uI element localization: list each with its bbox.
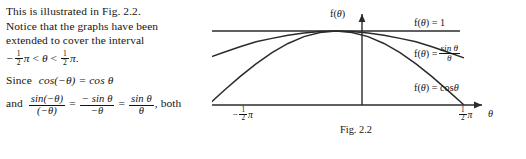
fraction-denominator: 2: [459, 114, 467, 122]
fraction-numerator: sin θ: [439, 44, 461, 53]
sinc-fraction: sin θθ: [129, 94, 154, 117]
fraction-denominator: 2: [61, 58, 69, 67]
theta-symbol: θ: [42, 52, 48, 64]
legend-label-sinc: f(θ) =sin θθ: [414, 44, 461, 64]
fraction-numerator: 1: [239, 107, 247, 114]
fraction-numerator: 1: [459, 107, 467, 114]
sinc-negative-fraction: sin(−θ)(−θ): [29, 94, 65, 117]
both-suffix: , both: [155, 97, 182, 109]
fraction-numerator: 1: [15, 50, 23, 58]
negative-sine-fraction: − sin θ−θ: [80, 94, 115, 117]
body-line-1: This is illustrated in Fig. 2.2.: [6, 4, 212, 19]
since-word: Since: [6, 74, 32, 86]
pi-symbol-left: π: [24, 52, 30, 64]
and-word: and: [6, 97, 23, 109]
sinc-legend-fraction: sin θθ: [439, 44, 461, 64]
fraction-denominator: (−θ): [29, 105, 65, 117]
one-half-fraction-right: 12: [61, 50, 69, 67]
one-half-fraction-left: 12: [15, 50, 23, 67]
x-axis-arrowhead: [474, 102, 482, 109]
body-line-2: Notice that the graphs have been: [6, 19, 212, 34]
x-tick-label-half-pi: 12π: [458, 107, 472, 123]
less-than-1: <: [32, 52, 39, 64]
figure-2-2: f(θ) f(θ) = 1 f(θ) =sin θθ f(θ) = cosθ −…: [212, 0, 526, 159]
y-axis-arrowhead: [359, 14, 366, 22]
fraction-numerator: 1: [61, 50, 69, 58]
fraction-denominator: 2: [15, 58, 23, 67]
fraction-numerator: sin(−θ): [29, 94, 65, 105]
y-axis-label: f(θ): [330, 8, 345, 19]
x-tick-label-neg-half-pi: −12π: [232, 107, 253, 123]
paragraph-spacer: [6, 66, 212, 73]
fraction-numerator: − sin θ: [80, 94, 115, 105]
less-than-2: <: [51, 52, 58, 64]
fraction-denominator: θ: [439, 53, 461, 63]
legend-label-constant-one: f(θ) = 1: [414, 17, 445, 28]
figure-caption: Fig. 2.2: [340, 124, 372, 135]
half-fraction-tick-right: 12: [459, 107, 467, 123]
period: .: [76, 52, 79, 64]
fraction-denominator: −θ: [80, 105, 115, 117]
interval-inequality: −12π < θ < 12π.: [6, 50, 212, 67]
body-line-3: extended to cover the interval: [6, 33, 212, 48]
minus-sign: −: [6, 52, 14, 64]
equals-sign-2: =: [118, 97, 125, 109]
textbook-page: This is illustrated in Fig. 2.2. Notice …: [0, 0, 526, 159]
fraction-denominator: θ: [129, 105, 154, 117]
fraction-numerator: sin θ: [129, 94, 154, 105]
legend-label-cosine: f(θ) = cosθ: [414, 82, 459, 93]
curve-cosine: [212, 31, 464, 105]
sine-identity-line: andsin(−θ)(−θ)=− sin θ−θ=sin θθ, both: [6, 94, 212, 117]
x-axis-label: θ: [488, 108, 493, 119]
cosine-identity-line: Since cos(−θ) = cos θ: [6, 73, 212, 88]
text-column: This is illustrated in Fig. 2.2. Notice …: [6, 4, 212, 159]
half-fraction-tick-left: 12: [239, 107, 247, 123]
fraction-denominator: 2: [239, 114, 247, 122]
equals-sign-1: =: [69, 97, 76, 109]
cosine-identity-expression: cos(−θ) = cos θ: [39, 74, 114, 86]
